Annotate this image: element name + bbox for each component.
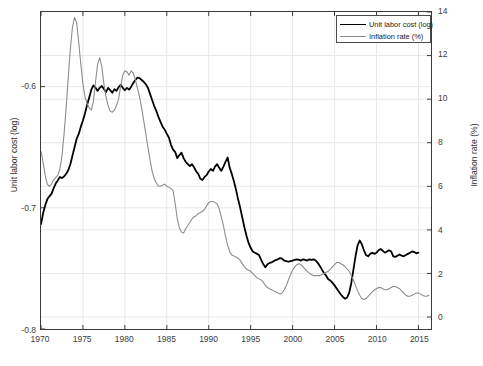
legend-label-unit-labor-cost: Unit labor cost (log) — [369, 20, 433, 29]
y-axis-right-tick-label: 2 — [438, 269, 462, 279]
y-axis-right-tick-label: 6 — [438, 181, 462, 191]
x-axis-tick-label: 2010 — [361, 334, 393, 344]
x-axis-tick-label: 2015 — [403, 334, 435, 344]
series-line-inflation-rate — [41, 17, 429, 299]
figure-container: Unit labor cost (log) Inflation rate (%)… — [0, 0, 483, 366]
legend-swatch-inflation-rate — [340, 36, 366, 37]
y-axis-left-tick-label: -0.7 — [4, 203, 36, 213]
x-axis-tick-label: 1975 — [66, 334, 98, 344]
y-axis-left-tick-label: -0.6 — [4, 81, 36, 91]
y-axis-left-tick-label: -0.8 — [4, 325, 36, 335]
plot-area — [40, 11, 432, 330]
series-line-unit-labor-cost — [41, 78, 418, 299]
y-axis-right-title: Inflation rate (%) — [469, 85, 479, 225]
x-axis-tick-label: 2000 — [277, 334, 309, 344]
x-axis-tick-label: 1980 — [108, 334, 140, 344]
x-axis-tick-label: 1985 — [150, 334, 182, 344]
y-axis-right-tick-label: 0 — [438, 312, 462, 322]
y-axis-right-tick-label: 8 — [438, 137, 462, 147]
legend-item-inflation-rate[interactable]: Inflation rate (%) — [340, 30, 427, 42]
legend-swatch-unit-labor-cost — [340, 24, 366, 25]
x-axis-tick-label: 1995 — [235, 334, 267, 344]
legend-item-unit-labor-cost[interactable]: Unit labor cost (log) — [340, 18, 427, 30]
x-axis-tick-label: 1990 — [193, 334, 225, 344]
data-series-layer — [41, 12, 431, 329]
legend-label-inflation-rate: Inflation rate (%) — [369, 32, 423, 41]
chart-legend[interactable]: Unit labor cost (log) Inflation rate (%) — [336, 15, 431, 43]
x-axis-tick-label: 2005 — [319, 334, 351, 344]
y-axis-right-tick-label: 12 — [438, 49, 462, 59]
x-axis-tick-label: 1970 — [24, 334, 56, 344]
y-axis-right-tick-label: 10 — [438, 93, 462, 103]
y-axis-right-tick-label: 4 — [438, 225, 462, 235]
y-axis-right-tick-label: 14 — [438, 6, 462, 16]
